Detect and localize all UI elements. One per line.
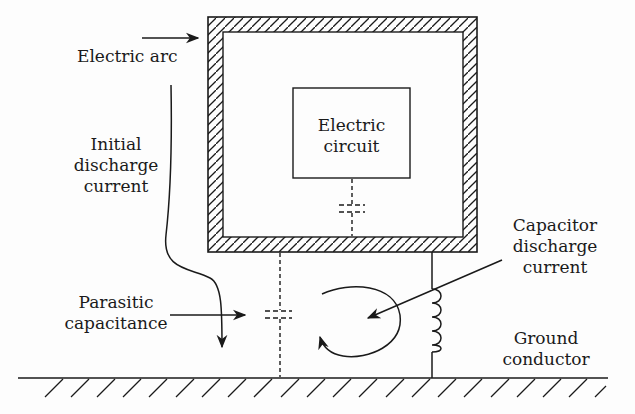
label-line: current <box>500 257 610 278</box>
label-line: conductor <box>492 349 600 370</box>
ground-plane <box>18 378 608 397</box>
label-electric-circuit: Electric circuit <box>293 115 410 157</box>
internal-parasitic-capacitor <box>339 179 365 236</box>
ground-conductor-inductor <box>432 252 441 378</box>
label-line: Parasitic <box>58 292 174 313</box>
label-line: Ground <box>492 328 600 349</box>
label-line: capacitance <box>58 313 174 334</box>
label-parasitic-capacitance: Parasitic capacitance <box>58 292 174 334</box>
label-initial-discharge-current: Initial discharge current <box>64 134 168 197</box>
label-line: Initial <box>64 134 168 155</box>
diagram-canvas: Electric arc Initial discharge current E… <box>0 0 635 414</box>
label-line: Electric <box>293 115 410 136</box>
external-parasitic-capacitor <box>265 253 292 377</box>
label-line: current <box>64 176 168 197</box>
label-electric-arc: Electric arc <box>77 46 178 67</box>
label-line: discharge <box>64 155 168 176</box>
capacitor-discharge-arrow <box>368 260 502 318</box>
label-line: Capacitor <box>500 215 610 236</box>
circulating-current-arrow <box>320 287 400 357</box>
label-ground-conductor: Ground conductor <box>492 328 600 370</box>
label-line: discharge <box>500 236 610 257</box>
label-capacitor-discharge-current: Capacitor discharge current <box>500 215 610 278</box>
label-line: circuit <box>293 136 410 157</box>
